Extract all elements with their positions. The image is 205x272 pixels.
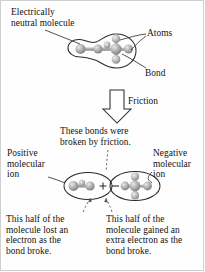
atom: [110, 43, 121, 54]
atom: [143, 182, 152, 191]
label-these-bonds-were-broken: These bonds were broken by friction.: [60, 126, 131, 147]
atom: [69, 181, 79, 191]
dashed-arrow-lost-electron: [83, 198, 92, 212]
label-gained-electron: This half of the molecule gained an extr…: [106, 214, 182, 256]
atom: [131, 191, 139, 199]
leader-line-positive-ion: [48, 177, 65, 183]
friction-arrow: [103, 90, 131, 123]
atom: [79, 180, 85, 186]
dashed-arrow-gained-electron: [104, 198, 112, 212]
label-lost-electron: This half of the molecule lost an electr…: [6, 214, 68, 256]
plus-charge-symbol: [100, 183, 107, 190]
atom: [75, 44, 85, 54]
label-positive-molecular-ion: Positive molecular ion: [7, 148, 45, 180]
label-bond: Bond: [145, 68, 166, 79]
atom: [112, 55, 121, 64]
positive-ion-group: [64, 173, 112, 200]
leader-line-neutral-molecule: [45, 30, 80, 44]
atom: [104, 42, 111, 49]
atom: [130, 181, 141, 192]
physics-figure: Electrically neutral molecule Atoms Bond…: [0, 0, 205, 272]
label-atoms: Atoms: [147, 28, 172, 39]
label-electrically-neutral-molecule: Electrically neutral molecule: [11, 7, 75, 28]
label-friction: Friction: [128, 96, 158, 107]
atom: [85, 181, 94, 190]
atom: [112, 35, 121, 44]
atom: [121, 182, 130, 191]
atom: [93, 44, 102, 53]
label-negative-molecular-ion: Negative molecular ion: [153, 148, 191, 180]
atom: [131, 173, 139, 181]
dashed-leader-broken-bonds: [106, 150, 108, 172]
neutral-molecule-group: [68, 34, 136, 68]
